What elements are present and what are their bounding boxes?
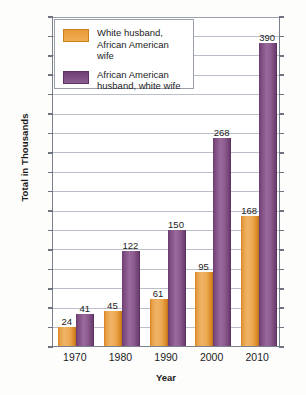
y-axis-tick <box>48 133 53 135</box>
y-axis-tick <box>48 249 53 251</box>
bar-2010-series-2 <box>259 43 277 346</box>
bar-value-label: 45 <box>107 300 118 311</box>
x-axis-tick-label-1990: 1990 <box>154 351 177 363</box>
y-axis-tick-right <box>279 113 284 115</box>
y-axis-title: Total in Thousands <box>19 78 30 238</box>
y-axis-tick <box>48 16 53 18</box>
gridline <box>53 94 279 95</box>
bar-1990-series-1 <box>150 299 168 346</box>
y-axis-tick-right <box>279 74 284 76</box>
bar-value-label: 24 <box>62 316 73 327</box>
y-axis-tick-right <box>279 16 284 18</box>
y-axis-tick <box>48 36 53 38</box>
legend-label-line-2: husband, white wife <box>97 80 180 92</box>
y-axis-tick-right <box>279 36 284 38</box>
y-axis-tick-right <box>279 94 284 96</box>
gridline <box>53 152 279 153</box>
x-axis-tick-label-1980: 1980 <box>109 351 132 363</box>
bar-1970-series-1 <box>58 327 76 346</box>
y-axis-tick <box>48 346 53 348</box>
legend-swatch-purple-icon <box>63 71 89 84</box>
y-axis-tick-right <box>279 210 284 212</box>
bar-2010-series-1 <box>241 216 259 346</box>
y-axis-tick-right <box>279 55 284 57</box>
bar-value-label: 41 <box>80 303 91 314</box>
y-axis-tick <box>48 172 53 174</box>
bar-2000-series-2 <box>213 138 231 346</box>
y-axis-tick <box>48 307 53 309</box>
y-axis-tick-right <box>279 152 284 154</box>
chart-legend: White husband, African American wife Afr… <box>54 19 194 89</box>
y-axis-tick-right <box>279 346 284 348</box>
y-axis-tick <box>48 94 53 96</box>
bar-chart: Total in Thousands 025507510012515017520… <box>0 0 306 395</box>
y-axis-tick <box>48 269 53 271</box>
bar-value-label: 61 <box>153 288 164 299</box>
gridline <box>53 191 279 192</box>
legend-label-line-1: White husband, <box>97 27 187 39</box>
x-axis-title: Year <box>52 372 280 383</box>
x-axis-tick-label-2000: 2000 <box>200 351 223 363</box>
y-axis-tick <box>48 113 53 115</box>
y-axis-tick <box>48 55 53 57</box>
bar-2000-series-1 <box>195 272 213 346</box>
y-axis-tick <box>48 288 53 290</box>
y-axis-tick-right <box>279 191 284 193</box>
y-axis-tick <box>48 327 53 329</box>
bar-value-label: 168 <box>241 205 257 216</box>
y-axis-tick-right <box>279 172 284 174</box>
bar-1970-series-2 <box>76 314 94 346</box>
x-axis-tick-label-2010: 2010 <box>246 351 269 363</box>
bar-value-label: 390 <box>259 32 275 43</box>
legend-label-line-1: African American <box>97 69 180 81</box>
bar-1980-series-1 <box>104 311 122 346</box>
y-axis-tick <box>48 191 53 193</box>
legend-label-line-2: African American wife <box>97 39 187 62</box>
bar-1980-series-2 <box>122 251 140 346</box>
legend-label-white-husband: White husband, African American wife <box>97 27 187 62</box>
y-axis-tick-right <box>279 230 284 232</box>
y-axis-tick <box>48 210 53 212</box>
y-axis-tick-right <box>279 269 284 271</box>
bar-value-label: 150 <box>168 219 184 230</box>
bar-value-label: 95 <box>198 261 209 272</box>
gridline <box>53 172 279 173</box>
y-axis-tick-right <box>279 249 284 251</box>
gridline <box>53 133 279 134</box>
y-axis-tick <box>48 74 53 76</box>
legend-label-african-american-husband: African American husband, white wife <box>97 69 180 92</box>
x-axis-tick-label-1970: 1970 <box>63 351 86 363</box>
y-axis-tick-right <box>279 327 284 329</box>
legend-swatch-orange-icon <box>63 29 89 42</box>
y-axis-tick-right <box>279 133 284 135</box>
legend-item-african-american-husband: African American husband, white wife <box>63 69 187 92</box>
gridline <box>53 114 279 115</box>
bar-value-label: 268 <box>214 127 230 138</box>
bar-value-label: 122 <box>122 240 138 251</box>
bar-1990-series-2 <box>168 230 186 346</box>
y-axis-tick-right <box>279 288 284 290</box>
legend-item-white-husband: White husband, African American wife <box>63 27 187 62</box>
y-axis-tick <box>48 230 53 232</box>
y-axis-tick-right <box>279 307 284 309</box>
gridline <box>53 17 279 18</box>
y-axis-tick <box>48 152 53 154</box>
